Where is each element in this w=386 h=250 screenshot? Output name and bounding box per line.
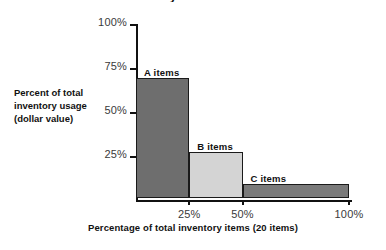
x-tick-label-0: 25% <box>178 208 201 220</box>
x-axis-line <box>136 200 352 202</box>
y-axis-label-line-3: (dollar value) <box>14 112 114 125</box>
y-axis-label: Percent of total inventory usage (dollar… <box>14 86 114 125</box>
y-tick-label-1: 75% <box>104 60 127 72</box>
chart-figure: ABC inventory classification Percent of … <box>0 0 386 250</box>
y-tick-label-3: 25% <box>104 148 127 160</box>
bar-label-b-items: B items <box>197 141 233 152</box>
bar-label-c-items: C items <box>251 173 287 184</box>
y-tick-label-0: 100% <box>98 16 127 28</box>
plot-area: 100%75%50%25%25%50%100%A itemsB itemsC i… <box>136 24 349 200</box>
y-tick-mark-0 <box>130 24 138 26</box>
y-axis-label-line-2: inventory usage <box>14 99 114 112</box>
bar-b-items[interactable] <box>189 152 242 198</box>
y-axis-label-line-1: Percent of total <box>14 86 114 99</box>
chart-title-clipped: ABC inventory classification <box>0 0 386 2</box>
bar-a-items[interactable] <box>136 78 189 198</box>
y-tick-mark-1 <box>130 68 138 70</box>
x-tick-mark-2 <box>348 200 350 205</box>
x-tick-mark-0 <box>188 200 190 205</box>
chart-title-text: ABC inventory classification <box>84 0 266 2</box>
x-tick-label-2: 100% <box>335 208 364 220</box>
x-tick-mark-1 <box>242 200 244 205</box>
bar-label-a-items: A items <box>144 67 179 78</box>
bar-c-items[interactable] <box>243 184 350 198</box>
y-tick-label-2: 50% <box>104 104 127 116</box>
x-tick-label-1: 50% <box>231 208 254 220</box>
x-axis-label: Percentage of total inventory items (20 … <box>0 222 386 233</box>
